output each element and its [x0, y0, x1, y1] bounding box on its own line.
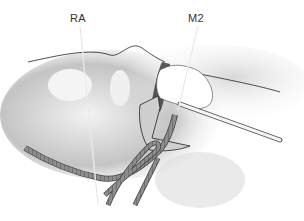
label-ra: RA: [70, 12, 86, 24]
label-m2: M2: [188, 12, 204, 24]
medical-illustration: RA M2: [0, 0, 304, 221]
anatomy-drawing: [0, 0, 304, 221]
